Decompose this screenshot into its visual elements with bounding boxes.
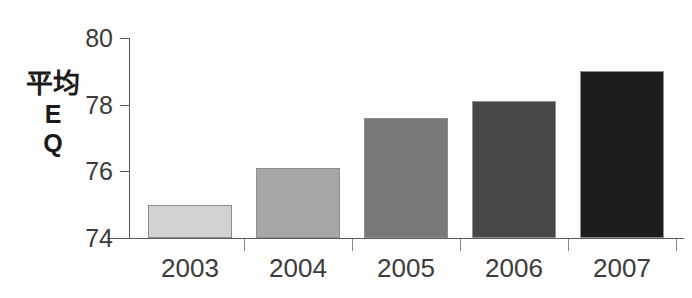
y-tick-mark	[120, 238, 129, 239]
x-tick-mark	[676, 239, 677, 251]
x-tick-mark	[244, 239, 245, 251]
y-axis-line	[129, 38, 130, 238]
plot-area: 8078767420032004200520062007	[0, 0, 692, 298]
y-tick-label: 76	[67, 157, 113, 186]
bar-chart: 平均 E Q 8078767420032004200520062007	[0, 0, 692, 298]
x-axis-line	[107, 238, 684, 239]
y-tick-mark	[120, 38, 129, 39]
x-category-label-2003: 2003	[136, 253, 244, 284]
y-tick-label: 78	[67, 90, 113, 119]
x-category-label-2006: 2006	[460, 253, 568, 284]
bar-2005	[364, 118, 448, 238]
bar-2007	[580, 71, 664, 238]
bar-2004	[256, 168, 340, 238]
x-tick-mark	[460, 239, 461, 251]
bar-2006	[472, 101, 556, 238]
y-tick-mark	[120, 105, 129, 106]
x-tick-mark	[352, 239, 353, 251]
x-category-label-2007: 2007	[568, 253, 676, 284]
y-tick-label: 74	[67, 224, 113, 253]
x-category-label-2004: 2004	[244, 253, 352, 284]
bar-2003	[148, 205, 232, 238]
x-tick-mark	[568, 239, 569, 251]
y-tick-mark	[120, 171, 129, 172]
x-category-label-2005: 2005	[352, 253, 460, 284]
y-tick-label: 80	[67, 24, 113, 53]
